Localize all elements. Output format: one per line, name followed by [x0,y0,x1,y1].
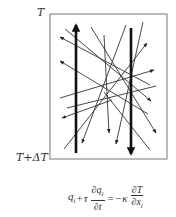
equation-minus-kappa: −κ [115,192,128,204]
thick-arrows [76,25,131,154]
heat-carrier-arrow [104,92,150,150]
equation-fraction-dT-dx: ∂T ∂xi [130,184,143,212]
equation-fraction-dq-dt: ∂qi ∂t [91,184,105,212]
thin-arrows [60,22,156,150]
cattaneo-equation: qi + τ ∂qi ∂t = −κ ∂T ∂xi [68,184,146,212]
equation-q: qi [68,190,75,205]
heat-carrier-arrow [67,86,156,108]
medium-box [50,14,167,159]
equation-equals: = [108,192,114,204]
equation-tau: τ [84,192,88,204]
equation-plus: + [76,192,82,204]
